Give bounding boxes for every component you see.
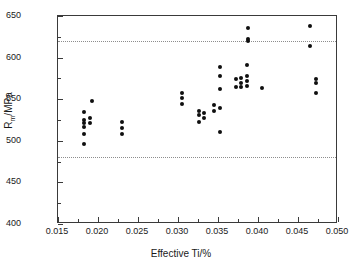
x-tick — [98, 217, 99, 222]
y-tick-label: 650 — [6, 11, 21, 20]
data-point — [218, 87, 222, 91]
data-point — [246, 39, 250, 43]
data-point — [246, 26, 250, 30]
y-axis-title-unit: /MPa — [3, 92, 14, 115]
x-tick-minor — [238, 219, 239, 222]
x-tick — [298, 217, 299, 222]
x-tick-minor — [78, 219, 79, 222]
y-tick — [58, 16, 63, 17]
y-tick-minor — [58, 203, 61, 204]
x-tick-label: 0.040 — [237, 227, 277, 236]
x-tick — [338, 217, 339, 222]
x-tick — [58, 217, 59, 222]
data-point — [260, 86, 264, 90]
x-tick-label: 0.045 — [277, 227, 317, 236]
data-point — [314, 91, 318, 95]
y-tick — [58, 99, 63, 100]
y-tick-label: 400 — [6, 219, 21, 228]
x-axis-title: Effective Ti/% — [0, 248, 362, 259]
data-point — [314, 81, 318, 85]
x-tick-minor — [158, 219, 159, 222]
data-point — [88, 116, 92, 120]
data-point — [120, 132, 124, 136]
x-tick-label: 0.015 — [37, 227, 77, 236]
x-tick — [258, 217, 259, 222]
y-tick-minor — [58, 37, 61, 38]
data-point — [308, 24, 312, 28]
upper-spec-limit-line — [58, 41, 336, 42]
y-tick-label: 450 — [6, 177, 21, 186]
y-axis-title: Rm/MPa — [3, 56, 16, 166]
x-tick-label: 0.035 — [197, 227, 237, 236]
plot-area — [58, 16, 336, 222]
data-point — [88, 121, 92, 125]
data-point — [202, 111, 206, 115]
data-point — [120, 120, 124, 124]
data-point — [90, 99, 94, 103]
x-tick-label: 0.030 — [157, 227, 197, 236]
data-point — [197, 120, 201, 124]
data-point — [202, 116, 206, 120]
data-point — [212, 109, 216, 113]
data-point — [212, 103, 216, 107]
data-point — [245, 74, 249, 78]
lower-spec-limit-line — [58, 157, 336, 158]
x-tick-label: 0.050 — [317, 227, 357, 236]
data-point — [239, 76, 243, 80]
data-point — [82, 132, 86, 136]
y-tick-minor — [58, 162, 61, 163]
y-axis-title-subscript: m — [9, 116, 16, 122]
data-point — [218, 65, 222, 69]
data-point — [245, 63, 249, 67]
y-tick-minor — [58, 120, 61, 121]
x-tick-minor — [278, 219, 279, 222]
x-tick-minor — [118, 219, 119, 222]
y-tick — [58, 182, 63, 183]
data-point — [234, 85, 238, 89]
x-tick — [178, 217, 179, 222]
data-point — [180, 96, 184, 100]
data-point — [245, 79, 249, 83]
data-point — [218, 130, 222, 134]
x-tick-label: 0.025 — [117, 227, 157, 236]
data-point — [180, 91, 184, 95]
scatter-chart-figure: 4004505005506006500.0150.0200.0250.0300.… — [0, 0, 362, 274]
data-point — [197, 113, 201, 117]
data-point — [218, 74, 222, 78]
data-point — [82, 125, 86, 129]
y-tick-minor — [58, 78, 61, 79]
data-point — [308, 44, 312, 48]
x-tick — [218, 217, 219, 222]
data-point — [234, 77, 238, 81]
plot-frame — [57, 15, 337, 223]
y-tick — [58, 58, 63, 59]
data-point — [245, 84, 249, 88]
y-tick — [58, 224, 63, 225]
y-axis-title-main: R — [3, 121, 14, 128]
data-point — [218, 106, 222, 110]
x-tick-minor — [198, 219, 199, 222]
data-point — [239, 85, 243, 89]
x-tick-label: 0.020 — [77, 227, 117, 236]
y-tick — [58, 141, 63, 142]
x-tick-minor — [318, 219, 319, 222]
data-point — [82, 142, 86, 146]
data-point — [120, 126, 124, 130]
x-tick — [138, 217, 139, 222]
data-point — [82, 110, 86, 114]
data-point — [180, 102, 184, 106]
